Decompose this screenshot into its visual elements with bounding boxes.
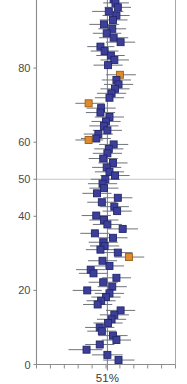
data-marker-highlight: [85, 100, 92, 107]
data-marker: [100, 21, 107, 28]
data-marker: [93, 212, 100, 219]
data-marker: [98, 328, 105, 335]
data-marker: [99, 257, 106, 264]
data-marker: [93, 135, 100, 142]
data-marker: [103, 30, 110, 37]
data-marker: [112, 172, 119, 179]
data-marker: [94, 301, 101, 308]
data-marker: [113, 274, 120, 281]
data-marker: [114, 4, 121, 11]
data-marker: [100, 185, 107, 192]
data-marker-highlight: [85, 136, 92, 143]
y-axis-tick-label: 50: [18, 173, 30, 185]
y-axis-tick-label: 60: [18, 136, 30, 148]
data-marker: [97, 246, 104, 253]
data-marker: [105, 320, 112, 327]
data-marker: [105, 62, 112, 69]
chart-canvas: 02040506080 51%: [0, 0, 187, 384]
data-marker: [115, 357, 122, 364]
data-marker: [104, 351, 111, 358]
data-marker: [96, 341, 103, 348]
data-marker: [109, 283, 116, 290]
data-marker: [100, 279, 107, 286]
data-marker: [84, 287, 91, 294]
data-marker: [109, 234, 116, 241]
data-marker: [119, 225, 126, 232]
data-marker: [110, 34, 117, 41]
data-marker: [98, 199, 105, 206]
data-marker: [114, 249, 121, 256]
forest-plot-figure: 02040506080 51%: [0, 0, 187, 384]
data-marker: [83, 346, 90, 353]
data-marker: [117, 39, 124, 46]
data-marker: [114, 194, 121, 201]
data-marker: [105, 8, 112, 15]
y-axis-tick-label: 40: [18, 210, 30, 222]
data-marker: [104, 127, 111, 134]
data-marker: [90, 270, 97, 277]
data-marker-highlight: [125, 254, 132, 261]
y-axis-tick-label: 0: [24, 359, 30, 371]
y-axis-tick-label: 20: [18, 284, 30, 296]
x-axis-caption-label: 51%: [96, 372, 119, 384]
data-marker: [104, 221, 111, 228]
data-marker: [97, 109, 104, 116]
data-marker: [91, 230, 98, 237]
data-marker: [93, 190, 100, 197]
data-marker: [106, 262, 113, 269]
x-axis-caption: 51%: [96, 372, 119, 384]
data-marker: [109, 16, 116, 23]
data-marker: [114, 208, 121, 215]
y-axis-tick-label: 80: [18, 62, 30, 74]
data-marker: [100, 155, 107, 162]
data-marker: [113, 337, 120, 344]
data-marker: [106, 94, 113, 101]
